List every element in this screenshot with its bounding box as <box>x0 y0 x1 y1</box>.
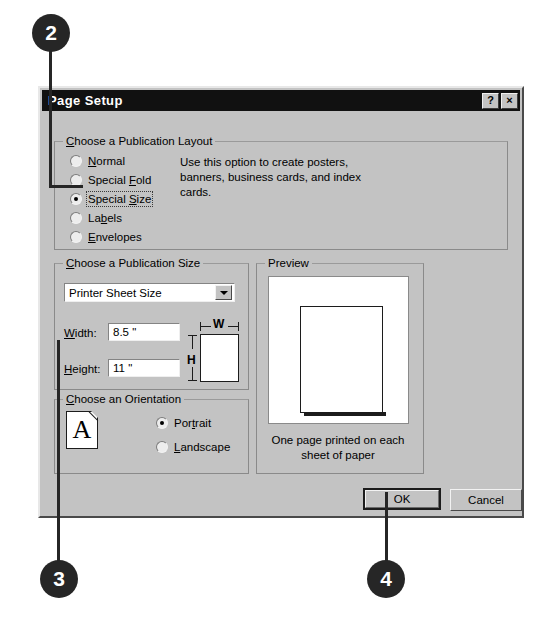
callout-number: 3 <box>53 567 65 591</box>
callout-marker-4: 4 <box>367 560 405 598</box>
radio-icon[interactable] <box>70 212 82 224</box>
height-label: Height: <box>64 363 100 375</box>
diagram-h-line-bottom <box>192 367 193 381</box>
ok-button-inner: OK <box>365 490 439 508</box>
publication-size-group-title: Choose a Publication Size <box>63 257 203 269</box>
help-icon[interactable]: ? <box>482 93 499 109</box>
height-input[interactable]: 11 " <box>108 359 180 377</box>
diagram-w-line-left <box>200 326 211 327</box>
dialog-title: Page Setup <box>48 93 480 108</box>
radio-label-special-fold: Special Fold <box>88 174 151 186</box>
radio-option-landscape[interactable]: Landscape <box>156 441 230 453</box>
orientation-group-title: Choose an Orientation <box>63 393 184 405</box>
diagram-h-tick-bottom <box>188 380 197 381</box>
chevron-down-icon[interactable] <box>215 285 232 300</box>
radio-label-special-size: Special Size <box>88 193 151 205</box>
close-icon[interactable]: × <box>501 93 518 109</box>
preview-page <box>300 306 383 413</box>
radio-option-portrait[interactable]: Portrait <box>156 417 211 429</box>
radio-label-labels: Labels <box>88 212 122 224</box>
callout-2-leader-horizontal <box>49 185 83 188</box>
diagram-w-tick-left <box>200 322 201 331</box>
diagram-h-tick-top <box>188 335 197 336</box>
radio-icon[interactable] <box>70 193 82 205</box>
radio-icon[interactable] <box>70 155 82 167</box>
diagram-h-line-top <box>192 335 193 349</box>
page-setup-dialog: Page Setup ? × Choose a Publication Layo… <box>38 86 524 518</box>
dialog-body: Choose a Publication Layout Normal Speci… <box>40 111 522 119</box>
preview-group-title: Preview <box>265 257 312 269</box>
callout-number: 2 <box>45 21 57 45</box>
callout-number: 4 <box>380 567 392 591</box>
diagram-height-label: H <box>187 353 196 367</box>
callout-2-leader-vertical <box>49 50 52 188</box>
ok-button[interactable]: OK <box>363 488 441 510</box>
radio-label-normal: Normal <box>88 155 125 167</box>
diagram-width-label: W <box>213 317 224 331</box>
size-diagram: W H <box>188 319 248 389</box>
callout-3-leader-vertical <box>57 340 60 562</box>
callout-marker-3: 3 <box>40 560 78 598</box>
layout-description: Use this option to create posters, banne… <box>180 155 390 200</box>
callout-marker-2: 2 <box>32 14 70 52</box>
dialog-titlebar[interactable]: Page Setup ? × <box>42 90 520 111</box>
orientation-page-icon: A <box>66 411 100 451</box>
publication-size-dropdown[interactable]: Printer Sheet Size <box>64 283 235 302</box>
callout-4-leader-vertical <box>385 492 388 562</box>
cancel-button[interactable]: Cancel <box>450 489 522 511</box>
radio-icon[interactable] <box>156 417 168 429</box>
publication-size-value: Printer Sheet Size <box>65 287 215 299</box>
radio-option-labels[interactable]: Labels <box>70 212 122 224</box>
radio-option-envelopes[interactable]: Envelopes <box>70 231 142 243</box>
radio-icon[interactable] <box>70 231 82 243</box>
ok-button-label: OK <box>394 493 411 505</box>
width-label: Width: <box>64 327 97 339</box>
orientation-letter: A <box>66 411 98 449</box>
group-title-rest: hoose a Publication Layout <box>74 135 212 147</box>
preview-caption: One page printed on each sheet of paper <box>263 433 413 463</box>
publication-layout-group-title: Choose a Publication Layout <box>63 135 215 147</box>
diagram-w-tick-right <box>238 322 239 331</box>
radio-label-landscape: Landscape <box>174 441 230 453</box>
width-input[interactable]: 8.5 " <box>108 323 180 341</box>
radio-option-normal[interactable]: Normal <box>70 155 125 167</box>
radio-icon[interactable] <box>156 441 168 453</box>
diagram-page-rect <box>200 334 239 382</box>
radio-label-envelopes: Envelopes <box>88 231 142 243</box>
radio-option-special-size[interactable]: Special Size <box>70 193 151 205</box>
radio-label-portrait: Portrait <box>174 417 211 429</box>
